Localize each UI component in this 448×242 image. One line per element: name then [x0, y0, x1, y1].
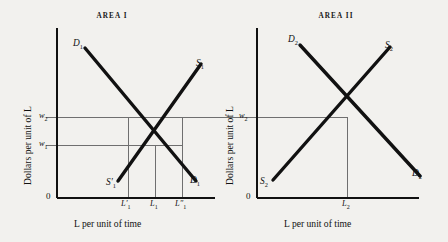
x-tick-L1-double-prime-area-1: L″1: [175, 199, 186, 210]
figure-canvas: AREA I Dollars per unit of L L p: [0, 0, 448, 242]
curve-label-D1-top: D1: [73, 38, 83, 50]
curve-label-S1-bottom: S′1: [106, 177, 116, 189]
chart-panel-area-2: AREA II Dollars per unit of L L per unit…: [224, 0, 448, 242]
y-tick-w1-area-1: w1: [39, 139, 48, 150]
origin-label-area-1: 0: [46, 191, 51, 201]
x-tick-L2-area-2: L2: [342, 199, 350, 210]
y-axis-title-area-1: Dollars per unit of L: [22, 106, 33, 185]
origin-label-area-2: 0: [246, 191, 251, 201]
supply-curve-S1: [118, 64, 201, 181]
x-axis-title-area-1: L per unit of time: [74, 218, 141, 229]
curve-label-S2-top: S2: [385, 40, 393, 52]
curve-label-S2-bottom: S2: [260, 176, 268, 188]
x-axis-title-area-2: L per unit of time: [284, 218, 351, 229]
y-axis-title-area-2: Dollars per unit of L: [224, 106, 235, 185]
y-tick-w2-area-1: w2: [39, 111, 48, 122]
reference-lines-area-2: [224, 117, 348, 198]
curve-label-S1-top: S1: [196, 58, 204, 70]
demand-curve-D1: [85, 48, 196, 181]
axes-area-1: [57, 28, 215, 198]
x-tick-L1-prime-area-1: L′1: [121, 199, 131, 210]
curve-label-D2-top: D2: [288, 34, 298, 46]
area-2-plot: [224, 0, 448, 242]
y-tick-w2-area-2: w2: [239, 111, 248, 122]
x-tick-L1-area-1: L1: [150, 199, 158, 210]
curve-label-D1-bottom: D1: [190, 175, 200, 187]
area-1-plot: [0, 0, 224, 242]
supply-curve-S2: [273, 47, 390, 180]
chart-panel-area-1: AREA I Dollars per unit of L L p: [0, 0, 224, 242]
curve-label-D2-bottom: D2: [412, 168, 422, 180]
demand-curve-D2: [300, 45, 420, 176]
